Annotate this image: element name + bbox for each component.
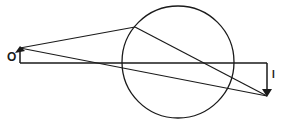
incident-ray-upper bbox=[20, 27, 135, 48]
ray-diagram bbox=[0, 0, 281, 123]
object-label: O bbox=[7, 51, 16, 63]
lens-circle bbox=[122, 6, 234, 118]
image-label: I bbox=[272, 70, 275, 80]
central-ray bbox=[20, 48, 267, 96]
refracted-ray bbox=[135, 27, 267, 96]
